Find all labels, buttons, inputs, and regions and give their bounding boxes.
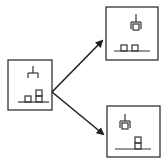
outcome-top-box bbox=[106, 7, 158, 60]
arrow-to-bottom-outcome bbox=[52, 92, 103, 134]
initial-state-box bbox=[8, 60, 52, 110]
arrow-to-top-outcome bbox=[52, 41, 102, 92]
diagram-canvas bbox=[0, 0, 165, 164]
outcome-bottom-box bbox=[107, 106, 160, 157]
